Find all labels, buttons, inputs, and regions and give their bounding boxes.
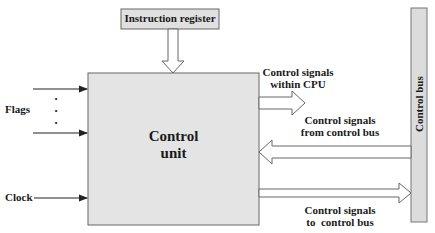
from-control-bus-label-line2: from control bus — [290, 126, 390, 138]
to-control-bus-label-line1: Control signals — [290, 204, 390, 216]
instruction-register-label: Instruction register — [121, 12, 219, 24]
flag-dot: • — [53, 117, 59, 129]
within-cpu-label: Control signals within CPU — [258, 66, 338, 91]
control-bus-label: Control bus — [413, 70, 425, 138]
to-control-bus-label-line2: to control bus — [290, 216, 390, 228]
within-cpu-label-line2: within CPU — [258, 78, 338, 90]
flag-dot: • — [53, 105, 59, 117]
to-control-bus-label: Control signals to control bus — [290, 204, 390, 229]
flags-label: Flags — [5, 103, 30, 115]
ir-to-control-unit-arrow — [162, 29, 184, 73]
within-cpu-label-line1: Control signals — [258, 66, 338, 78]
clock-label: Clock — [5, 191, 33, 203]
flag-dot: • — [53, 93, 59, 105]
from-control-bus-arrow — [259, 140, 411, 164]
control-unit-label-line2: unit — [88, 145, 259, 162]
control-unit-label-line1: Control — [88, 128, 259, 145]
flags-ellipsis: • • • — [53, 93, 59, 129]
control-unit-label: Control unit — [88, 128, 259, 163]
from-control-bus-label: Control signals from control bus — [290, 114, 390, 139]
from-control-bus-label-line1: Control signals — [290, 114, 390, 126]
within-cpu-arrow — [259, 91, 305, 115]
to-control-bus-arrow — [259, 183, 411, 203]
